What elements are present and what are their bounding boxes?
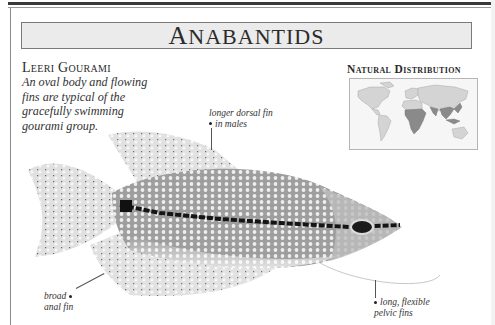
annotation-text: long, flexible bbox=[380, 297, 430, 307]
leader-line bbox=[375, 280, 376, 298]
annotation-pelvic-fins: long, flexible pelvic fins bbox=[374, 297, 430, 318]
pointer-dot-icon bbox=[69, 295, 72, 298]
annotation-line: pelvic fins bbox=[374, 308, 430, 319]
pointer-dot-icon bbox=[209, 122, 212, 125]
annotation-line: broad bbox=[44, 291, 75, 302]
pointer-dot-icon bbox=[374, 301, 377, 304]
annotation-dorsal-fin: longer dorsal fin in males bbox=[209, 108, 273, 129]
top-rule-thin bbox=[8, 7, 495, 8]
annotation-line: longer dorsal fin bbox=[209, 108, 273, 119]
distribution-heading: Natural Distribution bbox=[347, 63, 461, 75]
page-edge bbox=[491, 0, 495, 325]
annotation-line: in males bbox=[209, 119, 273, 130]
title-banner: ANABANTIDS bbox=[21, 22, 472, 49]
title-rest: NABANTIDS bbox=[188, 24, 324, 49]
annotation-line: anal fin bbox=[44, 302, 75, 313]
annotation-text: broad bbox=[44, 291, 66, 301]
fish-illustration bbox=[20, 115, 440, 310]
species-name: Leeri Gourami bbox=[22, 60, 111, 76]
gourami-illustration-icon bbox=[20, 115, 440, 310]
title-initial: A bbox=[169, 21, 189, 50]
annotation-text: in males bbox=[215, 119, 247, 129]
annotation-anal-fin: broad anal fin bbox=[44, 291, 75, 312]
top-rule bbox=[8, 2, 495, 5]
left-margin-rule bbox=[10, 8, 11, 325]
leader-line bbox=[211, 128, 212, 150]
page-title: ANABANTIDS bbox=[169, 23, 325, 49]
annotation-line: long, flexible bbox=[374, 297, 430, 308]
